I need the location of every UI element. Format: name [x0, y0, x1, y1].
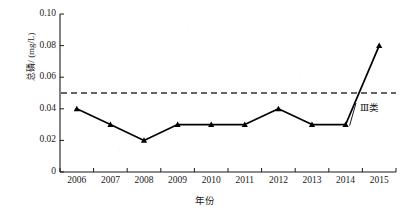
x-tick-label: 2015	[359, 176, 399, 186]
y-tick-label: 0.08	[22, 41, 56, 51]
y-tick-label: 0	[22, 167, 56, 177]
data-point-marker-0	[74, 106, 80, 112]
x-axis-title: 年份	[0, 193, 410, 207]
y-tick-label: 0.04	[22, 104, 56, 114]
data-point-marker-9	[376, 43, 382, 49]
data-point-marker-6	[275, 106, 281, 112]
chart-container: 总磷/ (mg/L) 00.020.040.060.080.10 2006200…	[0, 0, 410, 220]
y-tick-label: 0.06	[22, 72, 56, 82]
y-tick-label: 0.10	[22, 9, 56, 19]
class-iii-annotation-label: Ⅲ类	[360, 104, 379, 114]
y-tick-label: 0.02	[22, 136, 56, 146]
plot-area	[0, 0, 410, 220]
